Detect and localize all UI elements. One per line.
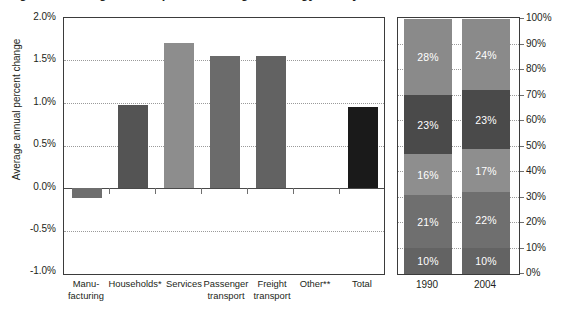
stack-1990-segment-2: 21% <box>404 195 452 248</box>
stack-2004-segment-1-label: 10% <box>475 255 497 267</box>
stack-1990-segment-1-label: 10% <box>417 255 439 267</box>
r-tick-mark-60 <box>520 120 524 121</box>
r-tick-mark-10 <box>520 248 524 249</box>
stack-2004-segment-5-label: 24% <box>475 49 497 61</box>
stack-2004-segment-2: 22% <box>462 192 510 248</box>
x-tick-5 <box>293 188 294 194</box>
y-tick-label-2.0: 2.0% <box>0 11 56 22</box>
r-tick-label-80: 80% <box>526 63 546 74</box>
x-tick-2 <box>155 188 156 194</box>
x-label-other: Other** <box>288 278 342 290</box>
y-tick-label-1.0: 1.0% <box>0 96 56 107</box>
x-tick-6 <box>339 188 340 194</box>
r-tick-mark-90 <box>520 44 524 45</box>
stack-1990-segment-3-label: 16% <box>417 169 439 181</box>
r-tick-label-0: 0% <box>526 267 540 278</box>
x-label-manufacturing: Manu- facturing <box>62 278 110 301</box>
right-chart-panel: 10% 21% 16% 23% 28% 10% <box>392 0 563 311</box>
stack-1990-segment-3: 16% <box>404 154 452 195</box>
stack-1990-segment-1: 10% <box>404 248 452 274</box>
x-label-freight-line2: transport <box>245 290 299 302</box>
r-tick-label-20: 20% <box>526 216 546 227</box>
x-label-total-line1: Total <box>335 278 389 290</box>
x-label-total: Total <box>335 278 389 290</box>
stacked-x-label-2004: 2004 <box>461 279 509 290</box>
stacked-plot-area: 10% 21% 16% 23% 28% 10% <box>397 17 520 275</box>
r-tick-label-100: 100% <box>526 12 552 23</box>
stack-1990-segment-4-label: 23% <box>417 119 439 131</box>
x-label-manufacturing-line1: Manu- <box>62 278 110 290</box>
r-tick-mark-40 <box>520 171 524 172</box>
y-tick-label-0.0: 0.0% <box>0 181 56 192</box>
stacked-bar-1990: 10% 21% 16% 23% 28% <box>404 19 452 274</box>
x-axis-labels: Manu- facturing Households* Services Pas… <box>63 278 385 311</box>
x-label-manufacturing-line2: facturing <box>62 290 110 302</box>
stack-2004-segment-3: 17% <box>462 149 510 192</box>
stack-2004-segment-4: 23% <box>462 90 510 149</box>
left-chart-panel: Average annual percent change 2.0% 1.5% … <box>0 0 392 311</box>
r-tick-label-60: 60% <box>526 114 546 125</box>
left-plot-area <box>63 17 385 275</box>
stack-1990-segment-4: 23% <box>404 95 452 154</box>
stack-1990-segment-5-label: 28% <box>417 51 439 63</box>
r-tick-mark-0 <box>520 273 524 274</box>
r-tick-mark-80 <box>520 69 524 70</box>
stack-2004-segment-4-label: 23% <box>475 114 497 126</box>
r-tick-mark-50 <box>520 146 524 147</box>
figure-root: Figure 1. Average annual percent change … <box>0 0 563 311</box>
r-tick-label-50: 50% <box>526 140 546 151</box>
x-tick-4 <box>247 188 248 194</box>
stack-2004-segment-3-label: 17% <box>475 165 497 177</box>
r-tick-mark-70 <box>520 95 524 96</box>
r-tick-label-40: 40% <box>526 165 546 176</box>
stacked-x-label-1990: 1990 <box>403 279 451 290</box>
stack-1990-segment-5: 28% <box>404 19 452 95</box>
y-tick-label-neg0.5: -0.5% <box>0 223 56 234</box>
y-tick-label-0.5: 0.5% <box>0 138 56 149</box>
r-tick-label-30: 30% <box>526 191 546 202</box>
stack-2004-segment-1: 10% <box>462 248 510 274</box>
r-tick-label-90: 90% <box>526 38 546 49</box>
stack-2004-segment-5: 24% <box>462 19 510 90</box>
x-tick-1 <box>109 188 110 194</box>
stacked-bar-2004: 10% 22% 17% 23% 24% <box>462 19 510 274</box>
x-label-other-line1: Other** <box>288 278 342 290</box>
y-tick-label-1.5: 1.5% <box>0 53 56 64</box>
y-axis-label: Average annual percent change <box>11 10 22 210</box>
y-tick-label-neg1.0: -1.0% <box>0 265 56 276</box>
r-tick-mark-20 <box>520 222 524 223</box>
r-tick-mark-100 <box>520 18 524 19</box>
stack-2004-segment-2-label: 22% <box>475 214 497 226</box>
r-tick-label-70: 70% <box>526 89 546 100</box>
r-tick-mark-30 <box>520 197 524 198</box>
r-tick-label-10: 10% <box>526 242 546 253</box>
x-tick-marks <box>64 18 384 274</box>
x-tick-3 <box>201 188 202 194</box>
stack-1990-segment-2-label: 21% <box>417 216 439 228</box>
